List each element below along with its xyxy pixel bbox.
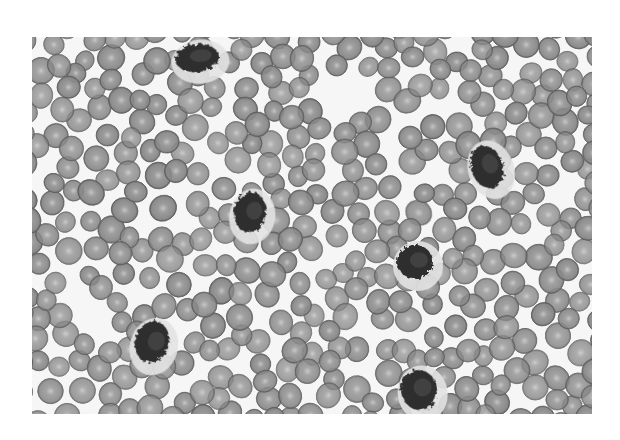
micrograph-canvas: [32, 37, 592, 414]
leukocyte: [393, 241, 443, 291]
blood-smear-image: [32, 37, 592, 414]
red-blood-cells: [32, 37, 592, 414]
